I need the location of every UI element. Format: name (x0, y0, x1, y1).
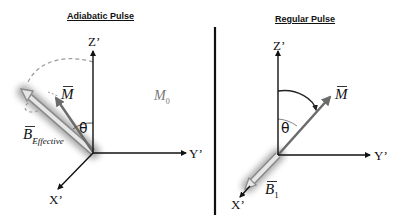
right-x-axis-label: X’ (231, 197, 245, 213)
right-theta-label: θ (281, 120, 290, 136)
overbar (63, 86, 73, 87)
left-y-axis-label: Y’ (189, 146, 203, 162)
right-z-axis-label: Z’ (273, 38, 285, 54)
overbar (25, 126, 35, 127)
b1-label: B1 (265, 181, 279, 200)
diagram-stage: Adiabatic Pulse Z’ Y’ X’ M BEffective θ … (0, 0, 403, 224)
right-m-vector-label: M (335, 86, 348, 103)
right-panel-graphics (240, 51, 370, 197)
right-y-axis-label: Y’ (374, 148, 388, 164)
left-z-axis-label: Z’ (88, 34, 100, 50)
dashed-precession-arc (28, 59, 93, 82)
left-x-axis-label: X’ (49, 192, 63, 208)
diagram-graphics (0, 0, 403, 224)
right-panel-title: Regular Pulse (275, 14, 335, 24)
left-panel-graphics (21, 51, 186, 189)
overbar (267, 181, 277, 182)
left-m-vector-label: M (61, 86, 74, 103)
m0-label: M0 (154, 88, 170, 106)
left-theta-label: θ (79, 120, 88, 136)
b-effective-label: BEffective (23, 126, 64, 146)
overbar (337, 86, 347, 87)
rotation-arc (278, 91, 316, 110)
x-axis-left (58, 153, 93, 189)
left-panel-title: Adiabatic Pulse (67, 11, 134, 21)
